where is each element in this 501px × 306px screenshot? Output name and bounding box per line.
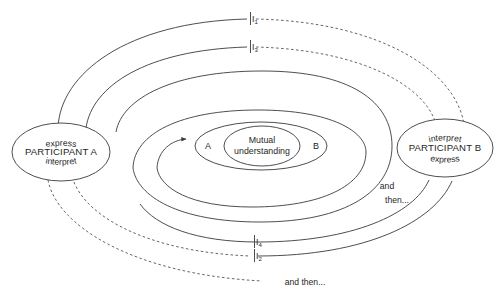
spiral-communication-diagram: A B Mutual understanding express PARTICI… [0, 0, 501, 306]
participant-a-name: PARTICIPANT A [25, 146, 98, 157]
participant-b-bottom-role: express [430, 153, 461, 164]
participant-a-bottom-role: interpret [45, 155, 78, 167]
mutual-understanding-line2: understanding [234, 146, 290, 156]
dashed-arc-and-then [48, 180, 262, 281]
center-label-b: B [313, 141, 319, 151]
spiral-arc-i3-solid [86, 47, 247, 128]
annotation-and: and [380, 181, 395, 191]
spiral-arc-i2-solid-right [258, 181, 452, 256]
center-label-a: A [205, 141, 211, 151]
dashed-arc-i3 [256, 47, 436, 124]
annotation-and-then-bottom: and then... [285, 277, 326, 287]
spiral-arc-i4-left [140, 204, 258, 242]
spiral-arc-i4-solid [258, 180, 429, 242]
participant-b-name: PARTICIPANT B [409, 142, 482, 153]
diagram-canvas: A B Mutual understanding express PARTICI… [0, 0, 501, 306]
marker-label-i1: I1 [252, 14, 258, 25]
spiral-loop-inner [157, 139, 186, 168]
marker-label-i4: I4 [256, 237, 262, 248]
marker-label-i3: I3 [252, 42, 258, 53]
annotation-then: then... [385, 195, 409, 205]
marker-label-i2: I2 [256, 251, 262, 262]
dashed-arc-i2 [74, 182, 250, 256]
mutual-understanding-line1: Mutual [249, 135, 275, 145]
